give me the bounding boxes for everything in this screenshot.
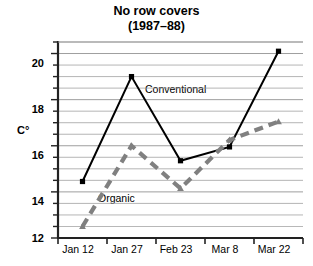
chart-container: No row covers (1987–88) C° 20 18 16 14 1… [0, 0, 313, 266]
data-point-marker [129, 74, 134, 79]
tick-marks-group [51, 42, 303, 244]
data-point-marker [227, 144, 232, 149]
data-point-marker [178, 158, 183, 163]
data-point-marker [276, 49, 281, 54]
plot-area [0, 0, 313, 266]
series-line-organic [83, 122, 279, 227]
data-point-marker [80, 179, 85, 184]
data-series-group [79, 49, 282, 229]
